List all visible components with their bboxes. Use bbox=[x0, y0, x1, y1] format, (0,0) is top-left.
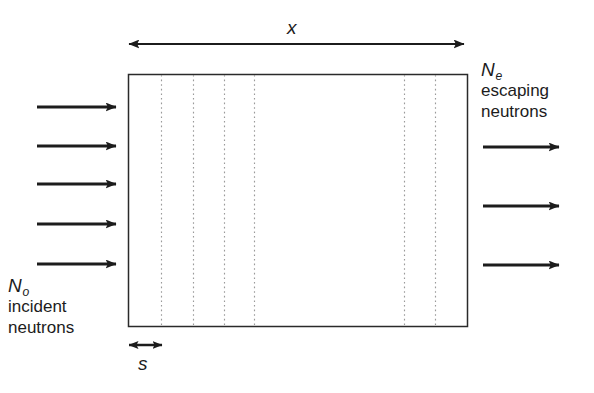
incident-symbol-subscript: o bbox=[22, 285, 29, 299]
escaping-symbol-subscript: e bbox=[495, 69, 502, 83]
incident-neutrons-symbol: No bbox=[8, 274, 74, 297]
slab-rectangle bbox=[129, 75, 468, 327]
incident-neutrons-line1: incident bbox=[8, 297, 74, 318]
escaping-neutrons-line2: neutrons bbox=[481, 102, 549, 123]
escaping-neutron-arrows bbox=[483, 147, 559, 265]
slice-symbol-label: s bbox=[138, 352, 148, 375]
escaping-symbol-base: N bbox=[481, 59, 495, 80]
thickness-symbol-label: x bbox=[287, 16, 297, 39]
neutron-attenuation-diagram: x s Ne escaping neutrons No incident neu… bbox=[0, 0, 594, 393]
incident-symbol-base: N bbox=[8, 275, 22, 296]
escaping-neutrons-line1: escaping bbox=[481, 81, 549, 102]
escaping-neutrons-symbol: Ne bbox=[481, 58, 549, 81]
incident-neutrons-label: No incident neutrons bbox=[8, 274, 74, 339]
incident-neutrons-line2: neutrons bbox=[8, 318, 74, 339]
incident-neutron-arrows bbox=[37, 107, 116, 264]
escaping-neutrons-label: Ne escaping neutrons bbox=[481, 58, 549, 123]
thickness-symbol: x bbox=[287, 17, 297, 38]
slice-symbol: s bbox=[138, 353, 148, 374]
